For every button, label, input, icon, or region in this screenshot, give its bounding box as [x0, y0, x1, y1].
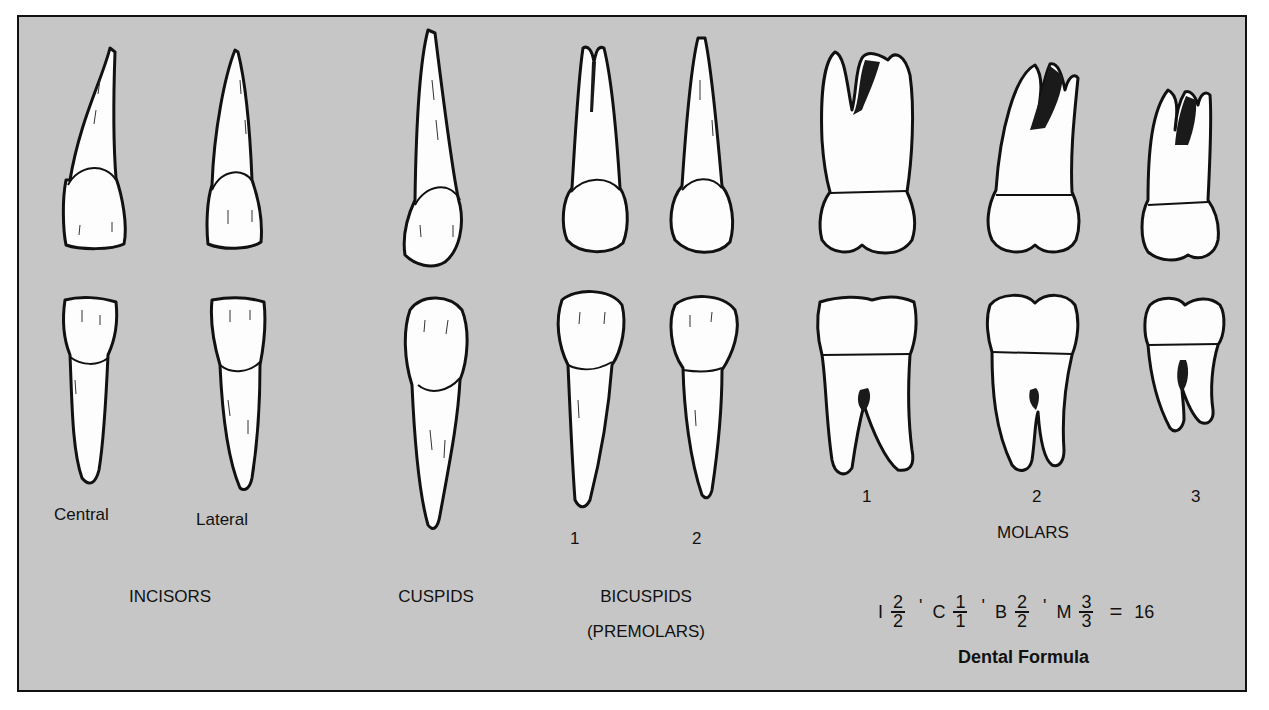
label-lateral-incisor: Lateral — [196, 510, 248, 530]
formula-separator: ' — [981, 596, 984, 617]
lower-third-molar — [1145, 298, 1224, 431]
formula-total: 16 — [1134, 602, 1154, 623]
formula-fraction-incisor: 2 2 — [891, 594, 905, 630]
group-label-bicuspids: BICUSPIDS — [600, 587, 692, 607]
lower-second-bicuspid — [671, 297, 737, 498]
formula-letter-incisor: I — [878, 602, 883, 623]
label-molar-2: 2 — [1032, 487, 1041, 507]
upper-second-bicuspid — [671, 38, 733, 252]
lower-first-bicuspid — [558, 292, 624, 507]
formula-fraction-molar: 3 3 — [1079, 594, 1093, 630]
group-sublabel-premolars: (PREMOLARS) — [587, 622, 705, 642]
formula-letter-bicuspid: B — [995, 602, 1007, 623]
formula-letter-molar: M — [1056, 602, 1071, 623]
group-label-incisors: INCISORS — [129, 587, 211, 607]
formula-letter-cuspid: C — [932, 602, 945, 623]
formula-fraction-cuspid: 1 1 — [953, 594, 967, 630]
label-central-incisor: Central — [54, 505, 109, 525]
group-label-cuspids: CUSPIDS — [398, 587, 474, 607]
upper-cuspid — [404, 30, 461, 266]
formula-separator: ' — [919, 596, 922, 617]
label-molar-1: 1 — [862, 487, 871, 507]
upper-central-incisor — [63, 48, 125, 249]
fraction-lower: 2 — [893, 613, 903, 630]
dental-formula: I 2 2 ' C 1 1 ' B 2 2 ' M 3 3 = 16 — [878, 594, 1154, 630]
formula-separator: ' — [1043, 596, 1046, 617]
upper-third-molar — [1142, 90, 1218, 260]
fraction-lower: 2 — [1017, 613, 1027, 630]
upper-second-molar — [988, 64, 1079, 252]
formula-equals: = — [1109, 599, 1122, 625]
label-bicuspid-1: 1 — [570, 529, 579, 549]
upper-first-molar — [820, 52, 915, 253]
lower-second-molar — [987, 295, 1077, 470]
formula-fraction-bicuspid: 2 2 — [1015, 594, 1029, 630]
lower-lateral-incisor — [211, 298, 264, 490]
upper-lateral-incisor — [207, 50, 261, 248]
fraction-lower: 1 — [955, 613, 965, 630]
lower-cuspid — [405, 298, 467, 528]
group-label-molars: MOLARS — [997, 523, 1069, 543]
dental-formula-title: Dental Formula — [958, 647, 1089, 668]
fraction-lower: 3 — [1081, 613, 1091, 630]
label-molar-3: 3 — [1191, 487, 1200, 507]
lower-central-incisor — [64, 298, 117, 484]
label-bicuspid-2: 2 — [692, 529, 701, 549]
upper-first-bicuspid — [563, 47, 627, 252]
lower-first-molar — [818, 297, 916, 474]
